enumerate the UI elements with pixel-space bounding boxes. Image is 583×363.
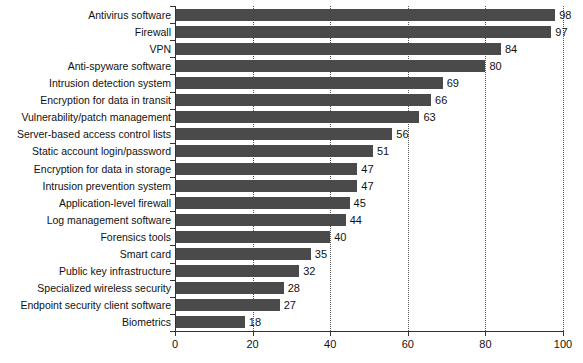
bar-value-label: 47	[361, 163, 373, 175]
x-axis-tick-label: 100	[554, 338, 572, 350]
bar	[175, 163, 357, 175]
x-axis-tick	[253, 331, 254, 336]
bar	[175, 248, 311, 260]
bar-value-label: 98	[559, 9, 571, 21]
x-axis-tick	[175, 331, 176, 336]
bar-chart: 98978480696663565147474544403532282718 A…	[0, 0, 583, 363]
x-axis-tick	[408, 331, 409, 336]
category-label: Firewall	[0, 26, 171, 38]
category-label: Anti-spyware software	[0, 60, 171, 72]
bar-value-label: 69	[447, 77, 459, 89]
x-axis-tick	[563, 331, 564, 336]
x-axis-line	[175, 331, 564, 332]
bar	[175, 9, 555, 21]
bar	[175, 145, 373, 157]
bar	[175, 60, 485, 72]
category-label: Endpoint security client software	[0, 299, 171, 311]
bar-value-label: 32	[303, 265, 315, 277]
bar	[175, 94, 431, 106]
category-label: Encryption for data in transit	[0, 94, 171, 106]
category-label: Intrusion detection system	[0, 77, 171, 89]
y-axis-line	[175, 6, 176, 331]
bar-value-label: 63	[423, 111, 435, 123]
bar	[175, 282, 284, 294]
bar	[175, 111, 419, 123]
bar	[175, 214, 346, 226]
bar	[175, 231, 330, 243]
bar-value-label: 27	[284, 299, 296, 311]
bar-value-label: 28	[288, 282, 300, 294]
category-label: Static account login/password	[0, 145, 171, 157]
bar-value-label: 40	[334, 231, 346, 243]
bar-value-label: 44	[350, 214, 362, 226]
category-label: Server-based access control lists	[0, 128, 171, 140]
bar-value-label: 56	[396, 128, 408, 140]
category-label: Specialized wireless security	[0, 282, 171, 294]
x-axis-tick-label: 60	[402, 338, 414, 350]
x-axis-tick-label: 0	[172, 338, 178, 350]
bar	[175, 180, 357, 192]
bar	[175, 299, 280, 311]
category-label: VPN	[0, 43, 171, 55]
bar-value-label: 51	[377, 145, 389, 157]
category-label: Vulnerability/patch management	[0, 111, 171, 123]
bar-value-label: 66	[435, 94, 447, 106]
bar-value-label: 97	[555, 26, 567, 38]
bar	[175, 316, 245, 328]
category-label: Biometrics	[0, 316, 171, 328]
bar-value-label: 84	[505, 43, 517, 55]
category-label: Forensics tools	[0, 231, 171, 243]
bar	[175, 77, 443, 89]
category-label: Antivirus software	[0, 9, 171, 21]
category-label: Public key infrastructure	[0, 265, 171, 277]
bar-value-label: 80	[489, 60, 501, 72]
x-axis-tick	[485, 331, 486, 336]
bar	[175, 265, 299, 277]
category-label: Application-level firewall	[0, 197, 171, 209]
x-axis-tick	[330, 331, 331, 336]
bar-value-label: 18	[249, 316, 261, 328]
category-label: Encryption for data in storage	[0, 163, 171, 175]
bar	[175, 197, 350, 209]
bar-value-label: 47	[361, 180, 373, 192]
category-label: Log management software	[0, 214, 171, 226]
x-axis-tick-label: 80	[479, 338, 491, 350]
category-label: Smart card	[0, 248, 171, 260]
bar	[175, 128, 392, 140]
bar-value-label: 45	[354, 197, 366, 209]
bar	[175, 43, 501, 55]
x-axis-tick-label: 40	[324, 338, 336, 350]
bar-value-label: 35	[315, 248, 327, 260]
x-axis-tick-label: 20	[246, 338, 258, 350]
category-label: Intrusion prevention system	[0, 180, 171, 192]
gridline	[408, 6, 409, 331]
gridline	[485, 6, 486, 331]
bar	[175, 26, 551, 38]
gridline	[563, 6, 564, 331]
